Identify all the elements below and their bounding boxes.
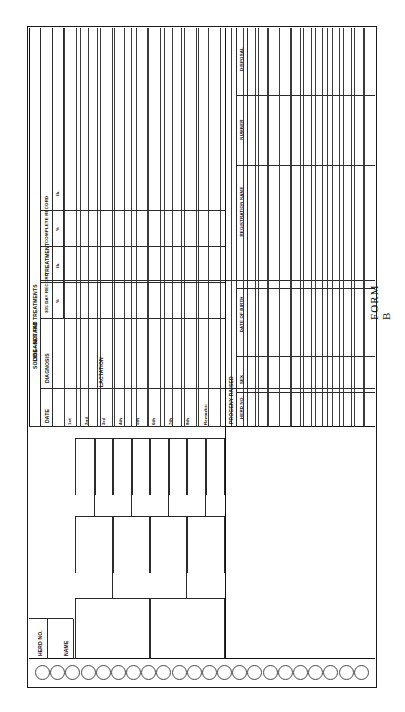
diseases-row-line (183, 28, 184, 427)
diseases-col-date: DATE (44, 409, 49, 423)
diseases-row-line (327, 28, 328, 427)
diseases-row-line (219, 28, 220, 427)
diseases-row-line (351, 28, 352, 427)
pedigree-gen2-box-4[interactable] (186, 516, 225, 573)
diseases-row-line (111, 28, 112, 427)
pedigree-gen3-box-8[interactable] (204, 438, 225, 495)
pedigree-gen2-box-3[interactable] (149, 516, 188, 573)
progeny-col-3: DATE OF BIRTH (239, 296, 243, 332)
lactation-col-sep-4 (40, 210, 225, 211)
diseases-row-line (195, 28, 196, 427)
card-content-area: HERD NO.NAMEDISEASES AND TREATMENTSDATED… (29, 28, 375, 659)
progeny-col-4: REGISTRATION NAME (239, 186, 243, 236)
lactation-row-line-5 (147, 28, 148, 427)
record-card-sheet: HERD NO.NAMEDISEASES AND TREATMENTSDATED… (17, 16, 389, 696)
name-divider (73, 619, 74, 659)
lactation-row-7: 7th (169, 418, 173, 425)
pedigree-gen2-box-1[interactable] (75, 516, 114, 573)
pedigree-gen3-box-1[interactable] (75, 438, 96, 495)
lactation-col-sep-2 (40, 282, 225, 283)
binder-hole (65, 665, 80, 680)
progeny-row-line (343, 28, 344, 427)
diseases-row-line (231, 28, 232, 427)
lactation-row-line-2 (96, 28, 97, 427)
lactation-left-rule (29, 426, 225, 427)
pedigree-stem-gen2-3 (167, 495, 168, 517)
binder-hole (186, 665, 201, 680)
lactation-row-line-1 (79, 28, 80, 427)
binder-hole (353, 665, 368, 680)
lactation-row-line-8 (198, 28, 199, 427)
binder-hole (232, 665, 247, 680)
pedigree-gen3-box-6[interactable] (167, 438, 188, 495)
binder-hole (50, 665, 65, 680)
pedigree-stem-gen2-1 (93, 495, 94, 517)
col-complete-pct: % (56, 227, 60, 231)
pedigree-gen3-box-5[interactable] (149, 438, 170, 495)
lactation-row-2: 2nd (84, 417, 88, 425)
progeny-col-6: DISPOSAL (239, 47, 243, 71)
pedigree-gen3-box-3[interactable] (112, 438, 133, 495)
binder-hole (171, 665, 186, 680)
lactation-row-6: 6th (152, 418, 156, 425)
pedigree-gen3-box-4[interactable] (130, 438, 151, 495)
diseases-row-line (75, 28, 76, 427)
herd-no-divider (47, 619, 48, 659)
binder-hole (156, 665, 171, 680)
pedigree-stem-gen2-2 (130, 495, 131, 517)
col-305-pct: % (56, 299, 60, 303)
diseases-row-line (303, 28, 304, 427)
progeny-row-line (257, 28, 258, 427)
binder-hole (247, 665, 262, 680)
binder-hole (110, 665, 125, 680)
binder-hole (201, 665, 216, 680)
binder-hole (338, 665, 353, 680)
col-complete-lb: lb. (56, 190, 60, 196)
binder-hole (293, 665, 308, 680)
name-label: NAME (64, 641, 69, 656)
progeny-header-underline (247, 28, 248, 427)
binder-hole (141, 665, 156, 680)
binder-hole (323, 665, 338, 680)
lactation-row-line-7 (181, 28, 182, 427)
pedigree-gen1-box-1[interactable] (75, 598, 151, 659)
diseases-row-line (207, 28, 208, 427)
diseases-row-line (339, 28, 340, 427)
lactation-row-5: 5th (135, 418, 139, 425)
pedigree-gen3-box-2[interactable] (93, 438, 114, 495)
solids-not-fat-label: SOLIDS—NOT FAT (32, 322, 37, 369)
pedigree-gen3-box-7[interactable] (186, 438, 207, 495)
diseases-col-treatment: TREATMENT (44, 243, 49, 275)
diseases-row-line (291, 28, 292, 427)
progeny-title-underline (236, 28, 237, 427)
progeny-row-line (332, 28, 333, 427)
lactation-col-sep-3 (40, 246, 225, 247)
band-separator-rule (225, 28, 226, 659)
diseases-col-diagnosis: DIAGNOSIS (44, 353, 49, 383)
progeny-row-line (364, 28, 365, 427)
lactation-row-8: 8th (186, 418, 190, 425)
pedigree-gen2-box-2[interactable] (112, 516, 151, 573)
diseases-row-line (159, 28, 160, 427)
lactation-group2-underline (52, 28, 53, 319)
binder-hole (262, 665, 277, 680)
binder-hole-strip (29, 659, 375, 686)
progeny-row-line (353, 28, 354, 427)
progeny-col-5: NUMBER (239, 119, 243, 139)
binder-hole (277, 665, 292, 680)
lactation-row-line-4 (130, 28, 131, 427)
diseases-row-line (87, 28, 88, 427)
diseases-row-line (135, 28, 136, 427)
diseases-top-rule (29, 28, 30, 427)
progeny-panel-title: PROGENY RAISED (228, 376, 233, 424)
lactation-col-sep-1 (40, 318, 225, 319)
pedigree-gen1-box-2[interactable] (149, 598, 225, 659)
group-305-label: 305 DAY RECORD (44, 273, 48, 313)
diseases-row-line (171, 28, 172, 427)
progeny-col-1: HERD NO. (239, 396, 243, 419)
herd-no-label: HERD NO. (38, 630, 43, 656)
lactation-row-header: LACTATION (99, 357, 104, 387)
form-caption: FORM B (368, 283, 392, 320)
lactation-group-underline (40, 28, 41, 319)
card-paper: HERD NO.NAMEDISEASES AND TREATMENTSDATED… (17, 16, 389, 696)
